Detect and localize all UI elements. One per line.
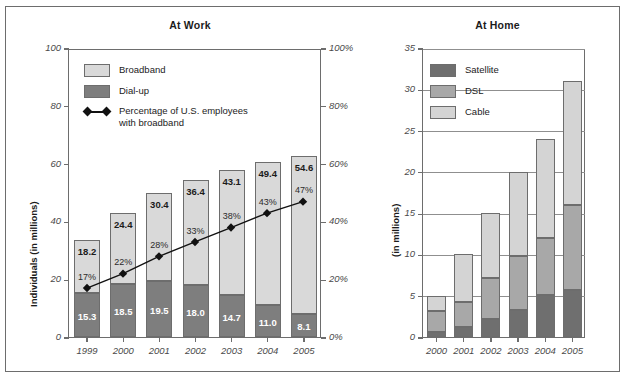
y-tick-label-left: 80	[50, 100, 61, 111]
y-tick-label: 25	[404, 125, 415, 136]
bar-segment-satellite	[454, 327, 473, 337]
legend-item-cable: Cable	[430, 105, 499, 119]
bar-segment-dsl	[427, 311, 446, 332]
y-tick-right	[321, 222, 326, 223]
gridline	[423, 131, 585, 132]
legend-label-dsl: DSL	[465, 85, 483, 97]
chart-title-at-work: At Work	[6, 19, 374, 31]
percentage-point-label: 22%	[99, 257, 147, 267]
legend-label-percentage: Percentage of U.S. employees with broadb…	[119, 105, 248, 129]
percentage-line-marker	[227, 223, 235, 231]
y-tick-right	[321, 48, 326, 49]
bar-at-home	[536, 48, 555, 337]
y-tick-label-right: 0%	[329, 331, 343, 342]
x-tick	[195, 337, 196, 342]
bar-segment-cable	[563, 81, 582, 205]
bar-segment-dsl	[536, 238, 555, 295]
y-tick	[418, 172, 423, 173]
y-tick-label: 0	[410, 331, 415, 342]
y-tick	[418, 337, 423, 338]
y-tick-right	[321, 106, 326, 107]
legend-item-dsl: DSL	[430, 84, 499, 98]
bar-segment-cable	[536, 139, 555, 238]
legend-label-dialup: Dial-up	[119, 85, 149, 97]
bar-segment-dsl	[481, 278, 500, 319]
x-tick	[159, 337, 160, 342]
legend-label-broadband: Broadband	[119, 64, 165, 76]
y-tick-left	[64, 337, 69, 338]
x-tick-label: 2005	[280, 345, 328, 356]
chart-title-at-home: At Home	[374, 19, 621, 31]
percentage-line-marker	[119, 269, 127, 277]
percentage-line-marker	[83, 284, 91, 292]
legend-label-satellite: Satellite	[465, 64, 499, 76]
bar-segment-satellite	[536, 295, 555, 337]
gridline	[423, 49, 585, 50]
chart-at-work: At Work Individuals (in millions) 020406…	[6, 7, 374, 371]
x-tick	[572, 337, 573, 342]
percentage-point-label: 47%	[280, 185, 328, 195]
x-tick	[303, 337, 304, 342]
y-tick-label-right: 60%	[329, 158, 348, 169]
legend-item-percentage-line: Percentage of U.S. employees with broadb…	[84, 105, 248, 129]
bar-segment-cable	[427, 296, 446, 312]
percentage-line-marker	[191, 238, 199, 246]
y-axis-label-at-work: Individuals (in millions)	[28, 201, 39, 307]
legend-item-broadband: Broadband	[84, 63, 248, 77]
gridline	[423, 255, 585, 256]
bar-segment-cable	[481, 213, 500, 277]
satellite-swatch-icon	[430, 64, 456, 77]
y-tick-label: 30	[404, 83, 415, 94]
legend-at-home: Satellite DSL Cable	[430, 63, 499, 126]
y-tick-label: 20	[404, 166, 415, 177]
bar-segment-satellite	[563, 290, 582, 337]
y-tick-label: 5	[410, 290, 415, 301]
gridline	[423, 214, 585, 215]
x-tick-label: 2005	[548, 345, 596, 356]
percentage-point-label: 33%	[172, 226, 220, 236]
gridline	[423, 172, 585, 173]
y-tick-label-left: 20	[50, 273, 61, 284]
y-tick-label-right: 100%	[329, 42, 353, 53]
legend-label-percentage-line1: Percentage of U.S. employees	[119, 105, 248, 116]
dialup-swatch-icon	[84, 85, 110, 98]
line-marker-icon	[84, 105, 110, 118]
bar-segment-cable	[509, 172, 528, 256]
bar-segment-dsl	[454, 302, 473, 328]
y-tick-label-left: 100	[45, 42, 61, 53]
bar-segment-dsl	[509, 256, 528, 310]
y-tick	[418, 90, 423, 91]
percentage-point-label: 28%	[135, 240, 183, 250]
dsl-swatch-icon	[430, 85, 456, 98]
legend-label-percentage-line2: with broadband	[119, 117, 184, 128]
percentage-line-marker	[263, 209, 271, 217]
y-tick	[418, 255, 423, 256]
y-tick-label-left: 40	[50, 215, 61, 226]
gridline	[423, 296, 585, 297]
percentage-line-marker	[155, 252, 163, 260]
percentage-line-marker	[299, 197, 307, 205]
y-tick-label-right: 80%	[329, 100, 348, 111]
bar-segment-cable	[454, 254, 473, 301]
y-tick-label-left: 0	[56, 331, 61, 342]
y-tick-label-left: 60	[50, 158, 61, 169]
legend-item-dialup: Dial-up	[84, 84, 248, 98]
y-tick-right	[321, 280, 326, 281]
x-tick	[267, 337, 268, 342]
y-tick-label-right: 40%	[329, 215, 348, 226]
bar-at-home	[509, 48, 528, 337]
y-tick	[418, 48, 423, 49]
y-tick	[418, 214, 423, 215]
cable-swatch-icon	[430, 106, 456, 119]
y-tick	[418, 296, 423, 297]
bar-segment-satellite	[481, 319, 500, 337]
percentage-point-label: 43%	[244, 197, 292, 207]
plot-right-edge	[584, 49, 585, 337]
y-tick-label: 15	[404, 207, 415, 218]
percentage-point-label: 17%	[63, 272, 111, 282]
bar-segment-satellite	[509, 310, 528, 337]
y-tick	[418, 131, 423, 132]
bar-at-home	[563, 48, 582, 337]
x-tick	[231, 337, 232, 342]
x-tick	[123, 337, 124, 342]
